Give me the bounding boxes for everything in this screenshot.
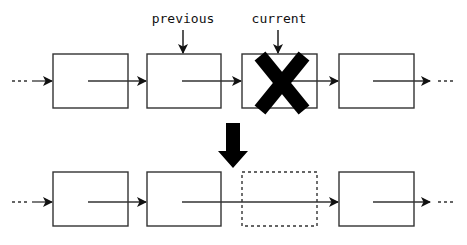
current-label: current — [252, 11, 307, 26]
node-1-box — [53, 172, 128, 226]
before-row: previous current — [12, 11, 455, 110]
linked-list-deletion-diagram: previous current — [0, 0, 467, 245]
after-row — [12, 172, 455, 226]
node-4-box — [339, 172, 414, 226]
previous-label: previous — [152, 11, 215, 26]
transition-down-arrow-icon — [218, 123, 248, 168]
removed-node-dashed-box — [242, 172, 317, 226]
node-2-box — [147, 172, 221, 226]
